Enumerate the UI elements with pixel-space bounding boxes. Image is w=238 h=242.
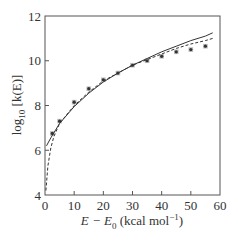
x-tick-label: 30 <box>126 198 139 213</box>
x-tick-label: 40 <box>155 198 168 213</box>
x-axis-label: E − E0 (kcal mol−1) <box>80 212 183 231</box>
data-point-center <box>87 87 90 90</box>
theory-dashed-line <box>46 38 213 190</box>
x-tick-label: 50 <box>184 198 197 213</box>
y-tick-label: 12 <box>28 9 41 24</box>
data-series <box>46 33 213 191</box>
x-tick-label: 0 <box>42 198 49 213</box>
y-tick-label: 4 <box>35 188 42 203</box>
y-axis-label: log10 [k(E)] <box>9 75 27 136</box>
plot-border <box>45 16 220 195</box>
data-point-center <box>189 48 192 51</box>
data-point-center <box>175 50 178 53</box>
data-point-center <box>204 45 207 48</box>
data-point-center <box>73 101 76 104</box>
y-tick-label: 10 <box>28 53 41 68</box>
x-tick-label: 20 <box>97 198 110 213</box>
plot-frame <box>45 16 220 195</box>
x-tick-label: 60 <box>214 198 227 213</box>
y-tick-label: 8 <box>35 98 42 113</box>
y-tick-label: 6 <box>35 143 42 158</box>
chart: 01020304050604681012 log10 [k(E)] E − E0… <box>0 0 238 242</box>
x-tick-label: 10 <box>68 198 81 213</box>
theory-solid-line <box>47 33 213 146</box>
data-point-center <box>160 55 163 58</box>
